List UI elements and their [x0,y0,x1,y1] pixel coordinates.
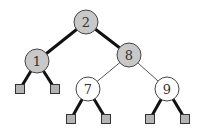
node-label: 7 [84,82,92,97]
leaf-square [16,85,25,94]
leaf-square [51,85,60,94]
leaf-square [67,115,76,124]
leaf-square [102,115,111,124]
leaf-square [181,115,190,124]
tree-node-7: 7 [76,77,100,101]
leaf-square [146,115,155,124]
tree-node-2: 2 [74,10,98,34]
node-label: 8 [125,48,133,63]
nodes-group: 21879 [25,10,179,101]
node-label: 1 [33,54,41,69]
tree-diagram: 21879 [0,0,202,138]
tree-node-8: 8 [117,43,141,67]
tree-node-9: 9 [155,77,179,101]
tree-canvas: 21879 [0,0,202,138]
tree-node-1: 1 [25,49,49,73]
node-label: 9 [163,82,171,97]
node-label: 2 [82,15,90,30]
